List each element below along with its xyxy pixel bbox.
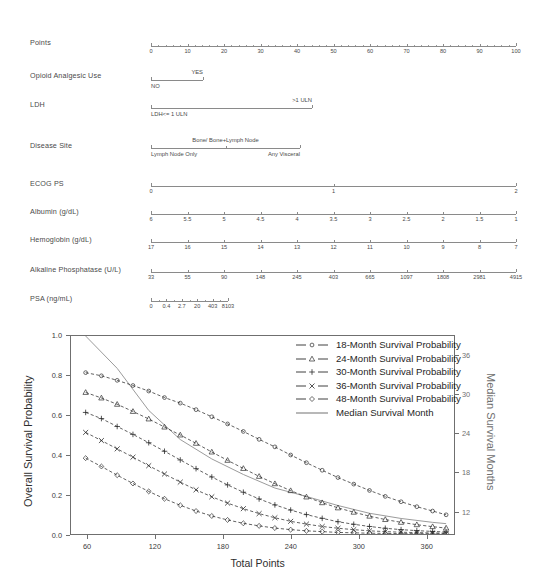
nomogram-axis-hemoglobin-g-dl	[151, 242, 516, 243]
legend-item-5: 48-Month Survival Probability	[295, 392, 461, 406]
y2-ticklabel-1: 18	[462, 468, 470, 477]
nomogram-minor-tick-points-8-1	[450, 45, 451, 47]
nomogram-minor-tick-points-4-2	[312, 45, 313, 47]
nomogram-ticklabel-points-8: 80	[440, 48, 446, 54]
nomogram-minor-tick-points-6-4	[399, 45, 400, 47]
nomogram-tick-points-7	[407, 44, 408, 47]
legend-item-label: Median Survival Month	[336, 406, 434, 420]
nomogram-ticklabel-hemoglobin-g-dl-9: 8	[478, 244, 481, 250]
nomogram-minor-tick-points-2-1	[231, 45, 232, 47]
legend-marker-plus-icon	[295, 365, 329, 379]
nomogram-ticklabel-albumin-g-dl-3: 4.5	[257, 216, 265, 222]
nomogram-ticklabel-hemoglobin-g-dl-0: 17	[148, 244, 154, 250]
x-ticklabel-0: 60	[83, 542, 91, 551]
nomogram-tick-alkaline-phosphatase-u-l-2	[224, 270, 225, 273]
nomogram-category-opioid-analgesic-use-1: YES	[191, 69, 203, 75]
nomogram-ticklabel-psa-ng-ml-1: 0.4	[163, 303, 171, 309]
nomogram-ticklabel-hemoglobin-g-dl-2: 15	[221, 244, 227, 250]
y-ticklabel-3: 0.6	[52, 411, 62, 420]
nomogram-tick-points-4	[297, 44, 298, 47]
nomogram-tick-psa-ng-ml-0	[151, 299, 152, 302]
nomogram-ticklabel-points-3: 30	[257, 48, 263, 54]
nomogram-minor-tick-psa-ng-ml-1-1	[174, 300, 175, 302]
nomogram-ticklabel-albumin-g-dl-2: 5	[222, 216, 225, 222]
nomogram-minor-tick-points-2-4	[253, 45, 254, 47]
nomogram-tick-psa-ng-ml-2	[182, 299, 183, 302]
nomogram-ticklabel-alkaline-phosphatase-u-l-2: 90	[221, 274, 227, 280]
nomogram-minor-tick-points-5-2	[348, 45, 349, 47]
nomogram-minor-tick-points-7-1	[414, 45, 415, 47]
nomogram-tick-hemoglobin-g-dl-5	[334, 240, 335, 243]
nomogram-ticklabel-alkaline-phosphatase-u-l-5: 403	[329, 274, 338, 280]
nomogram-minor-tick-points-4-4	[326, 45, 327, 47]
nomogram-ticklabel-alkaline-phosphatase-u-l-3: 148	[256, 274, 265, 280]
nomogram-minor-tick-points-0-1	[158, 45, 159, 47]
y-tickmark-1	[66, 495, 70, 496]
nomogram-minor-tick-points-5-4	[363, 45, 364, 47]
nomogram-category-disease-site-0: Lymph Node Only	[151, 151, 197, 157]
nomogram-tick-albumin-g-dl-7	[407, 212, 408, 215]
y2-ticklabel-2: 24	[462, 429, 470, 438]
nomogram-ticklabel-ecog-ps-1: 1	[332, 188, 335, 194]
legend-item-label: 18-Month Survival Probability	[336, 338, 461, 352]
nomogram-minor-tick-points-1-2	[202, 45, 203, 47]
nomogram-ticklabel-albumin-g-dl-6: 3	[368, 216, 371, 222]
nomogram-tick-disease-site-mid	[226, 146, 227, 149]
nomogram-minor-tick-points-7-3	[428, 45, 429, 47]
y2-tickmark-1	[455, 472, 459, 473]
nomogram-ticklabel-hemoglobin-g-dl-8: 9	[441, 244, 444, 250]
y2-ticklabel-0: 12	[462, 508, 470, 517]
nomogram-minor-tick-psa-ng-ml-2-1	[190, 300, 191, 302]
legend-item-6: Median Survival Month	[295, 406, 461, 420]
legend-item-label: 48-Month Survival Probability	[336, 392, 461, 406]
nomogram-ticklabel-alkaline-phosphatase-u-l-4: 245	[292, 274, 301, 280]
nomogram-minor-tick-points-2-3	[246, 45, 247, 47]
nomogram-tick-albumin-g-dl-3	[261, 212, 262, 215]
nomogram-tick-albumin-g-dl-0	[151, 212, 152, 215]
nomogram-ticklabel-psa-ng-ml-0: 0	[149, 303, 152, 309]
y-ticklabel-2: 0.4	[52, 451, 62, 460]
nomogram-tick-alkaline-phosphatase-u-l-4	[297, 270, 298, 273]
nomogram-ticklabel-points-10: 100	[511, 48, 520, 54]
nomogram-minor-tick-points-7-2	[421, 45, 422, 47]
nomogram-tick-hemoglobin-g-dl-4	[297, 240, 298, 243]
nomogram-ticklabel-points-1: 10	[184, 48, 190, 54]
x-ticklabel-5: 360	[421, 542, 433, 551]
nomogram-ticklabel-alkaline-phosphatase-u-l-1: 55	[184, 274, 190, 280]
nomogram-axis-alkaline-phosphatase-u-l	[151, 272, 516, 273]
nomogram-tick-points-6	[370, 44, 371, 47]
nomogram-tick-points-1	[188, 44, 189, 47]
nomogram-tick-psa-ng-ml-3	[197, 299, 198, 302]
nomogram-axis-cap-right-opioid-analgesic-use	[203, 77, 204, 80]
nomogram-ticklabel-points-9: 90	[476, 48, 482, 54]
nomogram-tick-albumin-g-dl-8	[443, 212, 444, 215]
nomogram-tick-ecog-ps-1	[334, 184, 335, 187]
nomogram-row-label-points: Points	[30, 38, 51, 47]
nomogram-tick-ecog-ps-2	[516, 184, 517, 187]
nomogram-tick-alkaline-phosphatase-u-l-5	[334, 270, 335, 273]
nomogram-axis-points	[151, 46, 516, 47]
legend-item-3: 30-Month Survival Probability	[295, 365, 461, 379]
nomogram-tick-points-3	[261, 44, 262, 47]
y2-tickmark-2	[455, 433, 459, 434]
nomogram-minor-tick-points-0-3	[173, 45, 174, 47]
nomogram-tick-albumin-g-dl-9	[480, 212, 481, 215]
nomogram-tick-points-10	[516, 44, 517, 47]
x-ticklabel-1: 120	[149, 542, 161, 551]
nomogram-minor-tick-points-7-4	[436, 45, 437, 47]
y-tickmark-3	[66, 415, 70, 416]
y-ticklabel-0: 0.0	[52, 531, 62, 540]
nomogram-ticklabel-hemoglobin-g-dl-6: 11	[367, 244, 373, 250]
legend-item-label: 24-Month Survival Probability	[336, 352, 461, 366]
nomogram-ticklabel-alkaline-phosphatase-u-l-8: 1808	[437, 274, 449, 280]
nomogram-ticklabel-albumin-g-dl-1: 5.5	[184, 216, 192, 222]
x-axis-label: Total Points	[231, 557, 285, 569]
nomogram-minor-tick-points-9-1	[487, 45, 488, 47]
nomogram-tick-psa-ng-ml-1	[166, 299, 167, 302]
nomogram-ticklabel-albumin-g-dl-10: 1	[514, 216, 517, 222]
nomogram-row-label-opioid-analgesic-use: Opioid Analgesic Use	[30, 71, 101, 80]
nomogram-minor-tick-points-3-4	[290, 45, 291, 47]
x-ticklabel-2: 180	[217, 542, 229, 551]
nomogram-ticklabel-psa-ng-ml-3: 20	[194, 303, 200, 309]
y-tickmark-2	[66, 455, 70, 456]
